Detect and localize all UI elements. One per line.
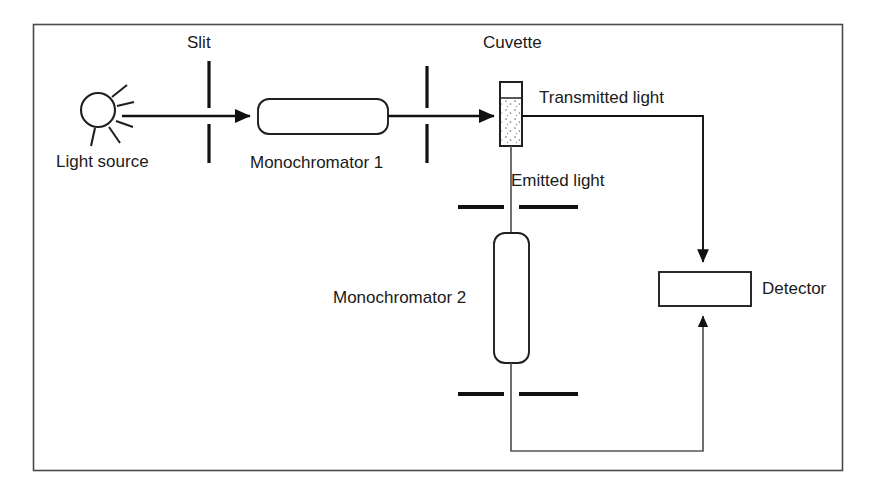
- cuvette: [500, 82, 522, 146]
- monochromator-2-box: [494, 233, 529, 363]
- spectrofluorimeter-diagram: Light source Slit Monochromator 1 Cuvett…: [0, 0, 876, 497]
- diagram-frame: [34, 25, 843, 471]
- monochromator-1-box: [258, 99, 388, 134]
- detector-box: [659, 272, 751, 306]
- transmitted-light-label: Transmitted light: [539, 88, 664, 107]
- cuvette-label: Cuvette: [483, 33, 542, 52]
- slit-label: Slit: [187, 33, 211, 52]
- monochromator-2-label: Monochromator 2: [333, 288, 466, 307]
- detector-label: Detector: [762, 279, 827, 298]
- monochromator-1-label: Monochromator 1: [250, 153, 383, 172]
- emitted-light-label: Emitted light: [511, 171, 605, 190]
- diagram-canvas: Light source Slit Monochromator 1 Cuvett…: [0, 0, 876, 497]
- light-source-label: Light source: [56, 152, 149, 171]
